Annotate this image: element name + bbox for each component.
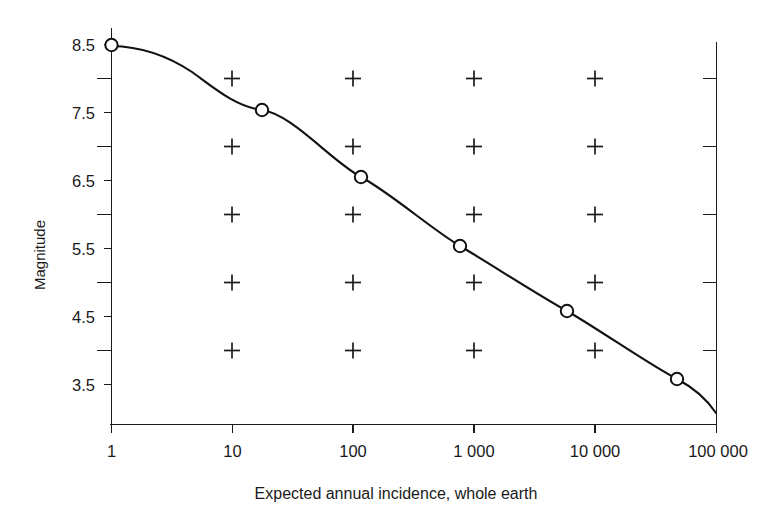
plus-marker — [345, 71, 361, 87]
y-axis-title: Magnitude — [31, 220, 48, 290]
curve-point-marker — [561, 305, 573, 317]
plus-marker — [466, 71, 482, 87]
plus-marker — [587, 71, 603, 87]
y-tick-label: 8.5 — [72, 36, 95, 54]
x-tick-label: 10 000 — [570, 442, 620, 460]
x-tick-label: 10 — [223, 442, 241, 460]
x-axis-tick-labels: 1 10 100 1 000 10 000 100 000 — [107, 442, 748, 460]
y-tick-label: 4.5 — [72, 308, 95, 326]
curve-markers — [105, 39, 683, 385]
plus-marker — [345, 275, 361, 291]
plus-marker — [587, 207, 603, 223]
magnitude-curve — [112, 46, 717, 413]
chart-figure: 8.5 7.5 6.5 5.5 4.5 3.5 1 10 100 1 000 1… — [0, 0, 768, 511]
chart-svg: 8.5 7.5 6.5 5.5 4.5 3.5 1 10 100 1 000 1… — [0, 0, 768, 511]
x-axis-title: Expected annual incidence, whole earth — [255, 485, 538, 502]
plus-marker — [224, 139, 240, 155]
plus-marker — [224, 71, 240, 87]
y-tick-label: 6.5 — [72, 172, 95, 190]
plus-marker — [587, 139, 603, 155]
plus-marker — [224, 275, 240, 291]
x-tick-label: 100 000 — [688, 442, 748, 460]
x-tick-label: 1 — [107, 442, 116, 460]
plus-marker — [466, 207, 482, 223]
curve-point-marker — [105, 39, 117, 51]
plus-marker — [587, 275, 603, 291]
plus-marker — [345, 207, 361, 223]
y-tick-label: 3.5 — [72, 376, 95, 394]
plus-marker — [224, 207, 240, 223]
plus-marker — [466, 343, 482, 359]
y-tick-label: 7.5 — [72, 104, 95, 122]
curve-point-marker — [256, 104, 268, 116]
x-axis-ticks — [112, 425, 717, 434]
plus-marker — [466, 275, 482, 291]
x-tick-label: 1 000 — [453, 442, 494, 460]
x-tick-label: 100 — [339, 442, 367, 460]
y-axis-minor-ticks — [97, 79, 112, 351]
y-axis-tick-labels: 8.5 7.5 6.5 5.5 4.5 3.5 — [72, 36, 95, 394]
plus-marker — [587, 343, 603, 359]
curve-point-marker — [355, 171, 367, 183]
curve-point-marker — [671, 373, 683, 385]
plus-marker — [345, 343, 361, 359]
right-axis-ticks — [703, 79, 717, 351]
plus-marker — [466, 139, 482, 155]
plus-marker — [224, 343, 240, 359]
plus-marker — [345, 139, 361, 155]
plus-marker-grid — [224, 71, 603, 359]
y-tick-label: 5.5 — [72, 240, 95, 258]
curve-point-marker — [454, 240, 466, 252]
